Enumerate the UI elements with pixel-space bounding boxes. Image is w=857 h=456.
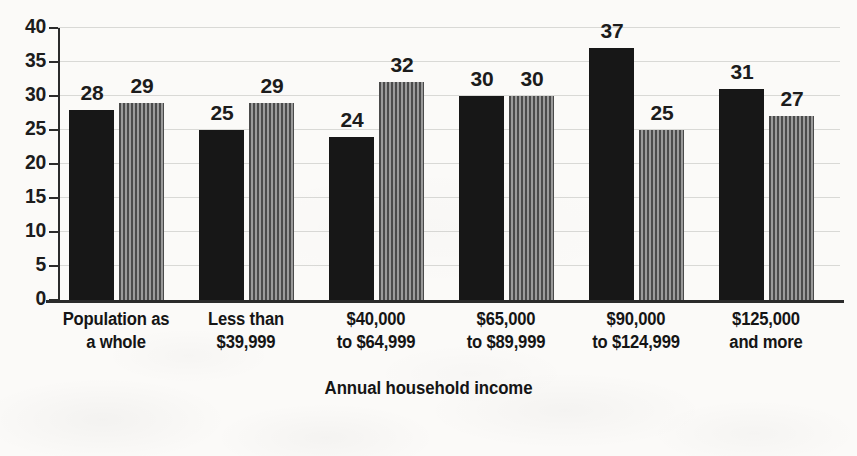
bar-value-label: 25 [187, 101, 257, 125]
y-axis-tick-label: 25 [6, 116, 46, 140]
bar-value-label: 31 [707, 60, 777, 84]
y-axis-tick-mark [49, 163, 58, 165]
bar-series-1 [69, 110, 114, 300]
y-axis-tick-label: 30 [6, 82, 46, 106]
bar-series-2 [379, 82, 424, 300]
y-axis-tick-mark [49, 95, 58, 97]
x-axis-title: Annual household income [17, 378, 840, 399]
bar-series-2 [769, 116, 814, 300]
bar-series-1 [329, 137, 374, 300]
chart-figure: 282925292432303037253127 051015202530354… [0, 0, 857, 456]
x-axis-line [46, 300, 844, 303]
bar-series-2 [119, 103, 164, 300]
bar-series-1 [589, 48, 634, 300]
bar-value-label: 27 [757, 87, 827, 111]
y-axis-line [58, 28, 60, 302]
bar-series-2 [509, 96, 554, 300]
y-axis-tick-label: 40 [6, 14, 46, 38]
bar-series-2 [639, 130, 684, 300]
y-axis-tick-mark [49, 129, 58, 131]
bar-series-1 [719, 89, 764, 300]
bar-value-label: 24 [317, 108, 387, 132]
bar-series-1 [459, 96, 504, 300]
bar-value-label: 37 [577, 19, 647, 43]
x-axis-category-labels: Population asa wholeLess than$39,999$40,… [58, 308, 840, 370]
y-axis-tick-mark [49, 231, 58, 233]
category-label-line: and more [685, 331, 847, 354]
y-axis-tick-mark [49, 27, 58, 29]
y-axis-tick-label: 0 [6, 286, 46, 310]
plot-area: 282925292432303037253127 [58, 28, 840, 300]
bar-value-label: 25 [627, 101, 697, 125]
category-label-line: $125,000 [685, 308, 847, 331]
bar-series-2 [249, 103, 294, 300]
bar-value-label: 29 [107, 74, 177, 98]
y-axis-tick-label: 35 [6, 48, 46, 72]
y-axis-tick-label: 15 [6, 184, 46, 208]
bar-value-label: 29 [237, 74, 307, 98]
y-axis-tick-mark [49, 265, 58, 267]
gridline [58, 27, 840, 28]
bar-series-1 [199, 130, 244, 300]
bar-value-label: 32 [367, 53, 437, 77]
y-axis-tick-label: 10 [6, 218, 46, 242]
y-axis-tick-label: 20 [6, 150, 46, 174]
y-axis-tick-mark [49, 61, 58, 63]
bar-value-label: 30 [497, 67, 567, 91]
y-axis-tick-label: 5 [6, 252, 46, 276]
x-axis-category-label: $125,000and more [685, 308, 847, 355]
y-axis-tick-mark [49, 197, 58, 199]
y-axis-tick-mark [49, 299, 58, 301]
